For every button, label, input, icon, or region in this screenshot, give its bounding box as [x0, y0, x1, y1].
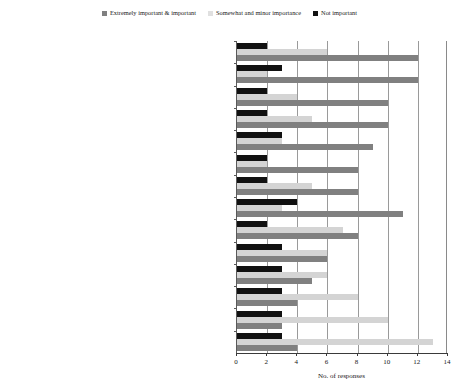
chart-category-group: [237, 86, 446, 108]
y-axis-tick: [234, 331, 237, 332]
x-axis-tick-label: 10: [383, 358, 390, 366]
y-axis-tick: [234, 219, 237, 220]
x-axis-tick-label: 6: [325, 358, 329, 366]
bar: [237, 167, 358, 173]
x-axis-tick: [266, 353, 267, 356]
y-axis-tick: [234, 264, 237, 265]
bar: [237, 100, 388, 106]
bar: [237, 144, 373, 150]
chart-category-group: [237, 108, 446, 130]
y-axis-tick: [234, 197, 237, 198]
chart-category-group: [237, 152, 446, 174]
y-axis-tick: [234, 242, 237, 243]
chart-category-group: [237, 219, 446, 241]
x-axis-tick: [357, 353, 358, 356]
x-axis-tick: [387, 353, 388, 356]
chart-category-group: [237, 63, 446, 85]
bar: [237, 55, 418, 61]
x-axis-tick-label: 14: [444, 358, 451, 366]
y-axis-tick: [234, 308, 237, 309]
bar: [237, 300, 297, 306]
x-axis-tick-label: 0: [234, 358, 238, 366]
y-axis-tick: [234, 108, 237, 109]
x-axis-tick-label: 12: [413, 358, 420, 366]
chart-category-group: [237, 197, 446, 219]
plot-area: [236, 41, 447, 353]
bar: [237, 256, 327, 262]
chart-category-group: [237, 130, 446, 152]
chart-category-group: [237, 331, 446, 353]
x-axis-tick: [236, 353, 237, 356]
chart-category-group: [237, 264, 446, 286]
x-axis-tick-label: 2: [264, 358, 268, 366]
bar: [237, 278, 312, 284]
y-axis-tick: [234, 41, 237, 42]
bar: [237, 189, 358, 195]
chart-category-group: [237, 41, 446, 63]
bar: [237, 122, 388, 128]
y-axis-tick: [234, 152, 237, 153]
chart-category-group: [237, 308, 446, 330]
chart-category-group: [237, 175, 446, 197]
y-axis-tick: [234, 130, 237, 131]
chart-category-group: [237, 242, 446, 264]
y-axis-tick: [234, 175, 237, 176]
chart-category-group: [237, 286, 446, 308]
y-axis-tick: [234, 286, 237, 287]
bar: [237, 323, 282, 329]
x-axis-tick: [296, 353, 297, 356]
y-axis-tick: [234, 86, 237, 87]
x-axis-tick: [417, 353, 418, 356]
bar: [237, 345, 297, 351]
x-axis-title: No. of responses: [236, 372, 447, 380]
x-axis-tick-label: 8: [355, 358, 359, 366]
x-axis-tick: [326, 353, 327, 356]
bar: [237, 77, 418, 83]
y-axis-tick: [234, 63, 237, 64]
bar: [237, 211, 403, 217]
x-axis: 02468101214: [236, 353, 447, 354]
bar: [237, 233, 358, 239]
x-axis-tick-label: 4: [295, 358, 299, 366]
x-axis-tick: [447, 353, 448, 356]
bar-chart: 02468101214 No. of responses Limited int…: [0, 0, 459, 391]
